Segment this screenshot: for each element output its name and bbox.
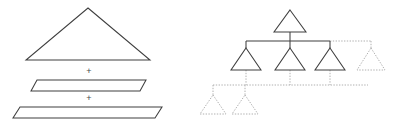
child-node-4 xyxy=(357,48,385,70)
child-node-1 xyxy=(231,48,261,70)
grandchild-node-2 xyxy=(232,95,258,114)
apex-triangle xyxy=(26,8,150,60)
plus-operator-1: + xyxy=(86,66,91,76)
middle-slab xyxy=(31,80,146,91)
tree-expansion-group xyxy=(200,10,385,114)
root-node xyxy=(274,10,306,32)
triangle-decomposition-group: ++ xyxy=(13,8,162,118)
child-node-3 xyxy=(315,48,345,70)
bottom-slab xyxy=(13,107,162,118)
child-node-2 xyxy=(275,48,305,70)
plus-operator-2: + xyxy=(86,93,91,103)
figure-canvas: ++ xyxy=(0,0,398,125)
grandchild-node-1 xyxy=(200,95,226,114)
diagram-svg: ++ xyxy=(0,0,398,125)
